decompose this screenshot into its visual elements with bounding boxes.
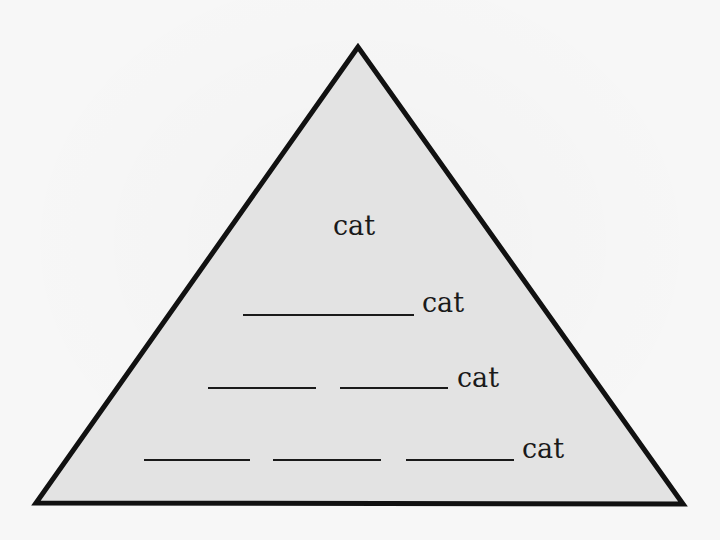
level-1-label: cat — [333, 212, 375, 239]
level-2-label: cat — [422, 289, 464, 316]
level-3-blank-2[interactable] — [340, 387, 448, 389]
level-4-blank-2[interactable] — [273, 459, 381, 461]
level-3-blank-1[interactable] — [208, 387, 316, 389]
level-3-label: cat — [457, 364, 499, 391]
level-4-label: cat — [522, 435, 564, 462]
level-4-blank-3[interactable] — [406, 459, 514, 461]
level-4-blank-1[interactable] — [144, 459, 250, 461]
level-2-blank-1[interactable] — [243, 314, 414, 316]
